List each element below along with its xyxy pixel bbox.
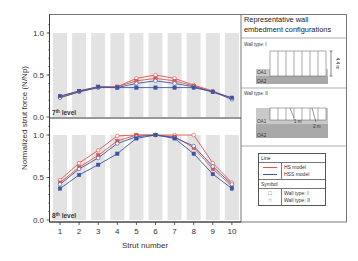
hss-line-swatch (263, 174, 277, 175)
wall-type-1-label: Wall type: I (244, 42, 267, 47)
legend-wall-type-2: Wall type: II (284, 197, 323, 204)
x-axis: 12345678910 (50, 222, 242, 236)
wall-height-dimension: 4.4 m (335, 58, 340, 70)
svg-text:7: 7 (172, 227, 177, 236)
x-axis-title: Strut number (122, 241, 169, 250)
svg-text:2: 2 (77, 227, 82, 236)
oa2-label-2: OA2 (257, 133, 267, 138)
legend-hs-label: HS model (284, 164, 323, 171)
legend-line-header: Line (259, 154, 272, 162)
short-wall-dimension: 1 m (294, 119, 302, 124)
wall-type-1-diagram: 4.4 m OA1 OA2 (256, 51, 340, 84)
oa1-label: OA1 (257, 70, 267, 75)
y-axis-title: Normalized strut force (N/Np) (20, 66, 29, 170)
oa2-label: OA2 (257, 79, 267, 84)
legend: Line HS model HSS model Symbol □ ○ Wall … (258, 153, 326, 206)
strut-force-figure: 0.00.51.00.00.51.0 12345678910 7th level… (0, 0, 358, 261)
svg-text:0.0: 0.0 (33, 216, 45, 225)
svg-text:8: 8 (191, 227, 196, 236)
svg-text:1: 1 (58, 227, 63, 236)
legend-symbol-header: Symbol (259, 180, 280, 188)
wall-type-2-diagram: 1 m 2 m OA1 OA2 (256, 108, 328, 138)
svg-text:4: 4 (115, 227, 120, 236)
svg-text:5: 5 (134, 227, 139, 236)
background-bars (53, 33, 239, 220)
legend-hss-label: HSS model (284, 171, 323, 178)
svg-text:9: 9 (211, 227, 216, 236)
svg-text:0.0: 0.0 (33, 113, 45, 122)
svg-text:3: 3 (96, 227, 101, 236)
svg-text:10: 10 (227, 227, 236, 236)
side-panel-title: Representative wall embedment configurat… (244, 15, 348, 34)
svg-text:0.5: 0.5 (33, 71, 45, 80)
legend-wall-type-1: Wall type: I (284, 190, 323, 197)
oa1-label-2: OA1 (257, 119, 267, 124)
square-symbol-icon: □ (268, 190, 272, 197)
y-axis: 0.00.51.00.00.51.0 (33, 15, 50, 225)
svg-text:1.0: 1.0 (33, 29, 45, 38)
circle-symbol-icon: ○ (268, 197, 272, 204)
hs-line-swatch (263, 167, 277, 168)
svg-text:1.0: 1.0 (33, 131, 45, 140)
wall-type-2-label: Wall type: II (244, 91, 268, 96)
svg-text:6: 6 (153, 227, 158, 236)
long-wall-dimension: 2 m (313, 124, 321, 129)
svg-text:0.5: 0.5 (33, 173, 45, 182)
